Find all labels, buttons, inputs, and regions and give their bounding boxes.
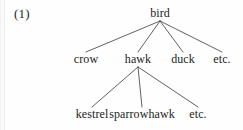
tree-node-kestrel: kestrel — [76, 108, 109, 121]
edge-bird-to-duck-2 — [160, 21, 183, 52]
tree-node-crow: crow — [74, 53, 98, 66]
tree-node-sparrowhawk: sparrowhawk — [109, 108, 175, 121]
edge-hawk-to-sparrowhawk-1 — [138, 67, 142, 107]
tree-node-etc-level2: etc. — [213, 53, 230, 66]
figure-canvas: (1) bird crow hawk duck etc. kestrel spa… — [0, 0, 243, 130]
tree-node-hawk: hawk — [125, 53, 151, 66]
tree-node-duck: duck — [171, 53, 195, 66]
edge-hawk-to-kestrel-0 — [92, 67, 138, 107]
tree-node-bird: bird — [150, 7, 170, 20]
edge-bird-to-etc-3 — [160, 21, 222, 52]
tree-node-etc-level3: etc. — [189, 108, 206, 121]
edge-hawk-to-etc-2 — [138, 67, 198, 107]
